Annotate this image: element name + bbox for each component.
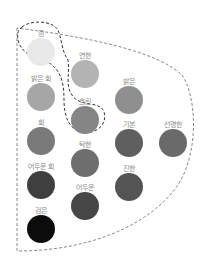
tone-label-light: 밝은 <box>123 78 135 86</box>
tone-swatch-dull <box>71 106 99 134</box>
tone-label-black: 검은 <box>35 207 47 215</box>
tone-swatch-strong <box>115 129 143 157</box>
tone-swatch-dark <box>71 192 99 220</box>
tone-swatch-light <box>115 86 143 114</box>
tone-label-deep: 진한 <box>123 165 135 173</box>
tone-label-dull: 흐린 <box>79 98 91 106</box>
tone-swatch-pale <box>71 60 99 88</box>
tone-label-vivid: 선명한 <box>164 121 182 129</box>
tone-label-grayish: 탁한 <box>79 141 91 149</box>
tone-swatch-grayish <box>71 149 99 177</box>
tone-swatch-deep <box>115 173 143 201</box>
tone-label-pale: 연한 <box>79 52 91 60</box>
tone-label-lightgray: 밝은 회 <box>31 75 51 83</box>
tone-label-gray: 회 <box>38 119 44 127</box>
tone-swatch-lightgray <box>27 83 55 111</box>
tone-label-darkgray: 어두운 회 <box>28 163 54 171</box>
tone-swatch-gray <box>27 127 55 155</box>
tone-swatch-vivid <box>159 129 187 157</box>
tone-swatch-black <box>27 215 55 243</box>
tone-swatch-white <box>27 38 55 66</box>
tone-label-dark: 어두운 <box>76 184 94 192</box>
tone-label-white: 흰 <box>38 30 44 38</box>
tone-swatch-darkgray <box>27 171 55 199</box>
tone-label-strong: 기본 <box>123 121 135 129</box>
